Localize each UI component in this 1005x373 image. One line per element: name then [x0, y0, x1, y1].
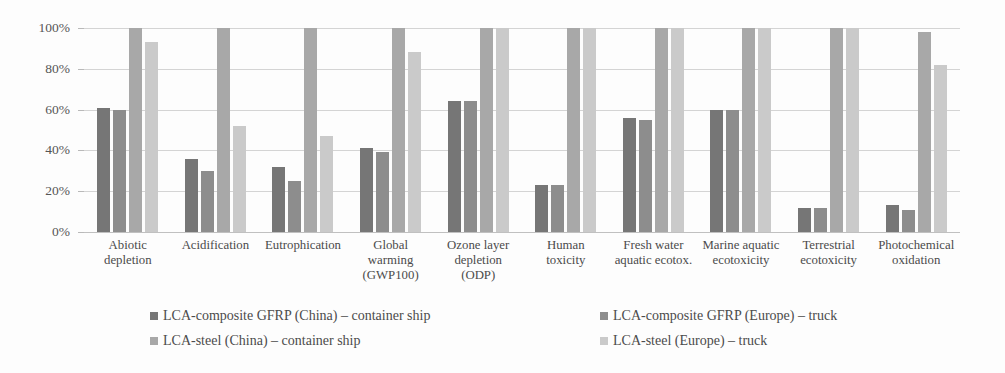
y-tick-label: 20%: [10, 184, 70, 198]
legend-item[interactable]: LCA-steel (China) – container ship: [150, 334, 361, 348]
bar[interactable]: [934, 65, 947, 232]
x-axis-category-label: Terrestrial ecotoxicity: [785, 238, 873, 268]
bar[interactable]: [185, 159, 198, 232]
x-axis-category-label: Marine aquatic ecotoxicity: [697, 238, 785, 268]
plot-area: [84, 28, 960, 232]
x-axis-category-label: Human toxicity: [522, 238, 610, 268]
bar[interactable]: [408, 52, 421, 232]
bar-chart: 0%20%40%60%80%100% Abiotic depletionAcid…: [0, 0, 1005, 373]
x-axis-category-label: Fresh water aquatic ecotox.: [610, 238, 698, 268]
legend-swatch: [600, 337, 608, 345]
y-tick-label: 100%: [10, 21, 70, 35]
bar-group: [172, 28, 260, 232]
bar[interactable]: [830, 28, 843, 232]
bar[interactable]: [671, 28, 684, 232]
x-axis-category-label: Eutrophication: [259, 238, 347, 253]
bar[interactable]: [918, 32, 931, 232]
bar-group: [434, 28, 522, 232]
bar[interactable]: [320, 136, 333, 232]
x-axis-category-label: Acidification: [172, 238, 260, 253]
bar[interactable]: [535, 185, 548, 232]
bar[interactable]: [304, 28, 317, 232]
legend-item[interactable]: LCA-composite GFRP (Europe) – truck: [600, 309, 837, 323]
legend-label: LCA-composite GFRP (Europe) – truck: [613, 309, 837, 323]
bar-group: [522, 28, 610, 232]
bar[interactable]: [97, 108, 110, 232]
y-tick-label: 80%: [10, 62, 70, 76]
bar[interactable]: [726, 110, 739, 232]
legend-swatch: [150, 312, 158, 320]
bar[interactable]: [201, 171, 214, 232]
bar-group: [347, 28, 435, 232]
y-tick-label: 0%: [10, 225, 70, 239]
bar[interactable]: [233, 126, 246, 232]
bar[interactable]: [288, 181, 301, 232]
bar[interactable]: [376, 152, 389, 232]
bar[interactable]: [886, 205, 899, 232]
bar[interactable]: [623, 118, 636, 232]
bar[interactable]: [567, 28, 580, 232]
bar[interactable]: [758, 28, 771, 232]
legend-label: LCA-steel (Europe) – truck: [613, 334, 767, 348]
bar[interactable]: [814, 208, 827, 232]
x-axis-category-label: Ozone layer depletion (ODP): [434, 238, 522, 283]
gridline: [84, 232, 960, 233]
x-axis-category-label: Abiotic depletion: [84, 238, 172, 268]
bar[interactable]: [145, 42, 158, 232]
chart-legend: LCA-composite GFRP (China) – container s…: [0, 303, 1005, 363]
bar[interactable]: [448, 101, 461, 232]
legend-item[interactable]: LCA-composite GFRP (China) – container s…: [150, 309, 430, 323]
bar[interactable]: [129, 28, 142, 232]
bar[interactable]: [392, 28, 405, 232]
bar-group: [259, 28, 347, 232]
bar[interactable]: [655, 28, 668, 232]
bar[interactable]: [272, 167, 285, 232]
bar[interactable]: [902, 210, 915, 232]
bar[interactable]: [217, 28, 230, 232]
legend-item[interactable]: LCA-steel (Europe) – truck: [600, 334, 767, 348]
bar-group: [785, 28, 873, 232]
x-axis-category-label: Global warming (GWP100): [347, 238, 435, 283]
y-tick-label: 40%: [10, 143, 70, 157]
bar[interactable]: [360, 148, 373, 232]
bar-group: [610, 28, 698, 232]
bar[interactable]: [113, 110, 126, 232]
bar[interactable]: [551, 185, 564, 232]
bar[interactable]: [583, 28, 596, 232]
bar-group: [84, 28, 172, 232]
legend-label: LCA-steel (China) – container ship: [163, 334, 361, 348]
bar[interactable]: [639, 120, 652, 232]
legend-swatch: [600, 312, 608, 320]
bar[interactable]: [798, 208, 811, 232]
bar[interactable]: [464, 101, 477, 232]
bar[interactable]: [710, 110, 723, 232]
bar[interactable]: [742, 28, 755, 232]
bar[interactable]: [496, 28, 509, 232]
y-tick-label: 60%: [10, 103, 70, 117]
bar-group: [697, 28, 785, 232]
bar[interactable]: [480, 28, 493, 232]
legend-label: LCA-composite GFRP (China) – container s…: [163, 309, 430, 323]
legend-swatch: [150, 337, 158, 345]
x-axis-category-label: Photochemical oxidation: [872, 238, 960, 268]
bar[interactable]: [846, 28, 859, 232]
bar-group: [872, 28, 960, 232]
